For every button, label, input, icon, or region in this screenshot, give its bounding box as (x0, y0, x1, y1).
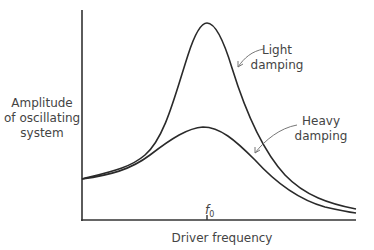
y-label-line: of oscillating (4, 111, 80, 126)
f0-tick-label: f0 (205, 203, 214, 222)
y-axis-label: Amplitude of oscillating system (4, 96, 80, 141)
x-axis-label: Driver frequency (0, 231, 374, 246)
y-label-line: Amplitude (4, 96, 80, 111)
label-line: Light (244, 43, 310, 58)
light-damping-label: Light damping (244, 43, 310, 73)
label-line: damping (288, 129, 354, 144)
heavy-damping-label: Heavy damping (288, 114, 354, 144)
tick-label-subscript: 0 (209, 210, 214, 219)
label-line: Heavy (288, 114, 354, 129)
label-line: damping (244, 58, 310, 73)
y-label-line: system (4, 126, 80, 141)
